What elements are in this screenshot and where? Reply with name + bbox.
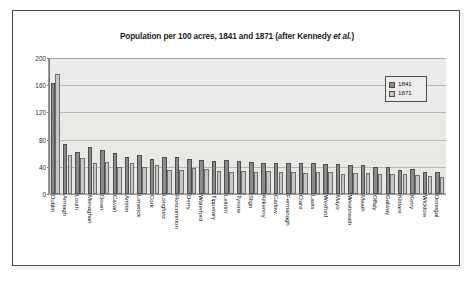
bar-1871[interactable] <box>428 176 433 194</box>
bar-1871[interactable] <box>378 174 383 194</box>
bar-1871[interactable] <box>291 172 296 194</box>
bar-1871[interactable] <box>328 172 333 194</box>
bar-group[interactable] <box>435 58 444 194</box>
x-axis-label-westmeath: Westmeath <box>347 195 354 225</box>
bar-1871[interactable] <box>68 155 73 194</box>
bar-group[interactable] <box>286 58 295 194</box>
legend-swatch-1841-icon <box>389 82 395 88</box>
x-axis-label-sligo: Sligo <box>248 195 255 208</box>
x-axis-category-labels: DublinArmaghLouthMonaghanDownCavanAntrim… <box>48 195 445 265</box>
x-axis-label-cavan: Cavan <box>112 195 119 212</box>
figure-root: Population per 100 acres, 1841 and 1871 … <box>0 0 476 283</box>
x-axis-label-longford: Longford <box>161 195 168 219</box>
bar-1871[interactable] <box>192 168 197 194</box>
bar-1871[interactable] <box>254 172 259 194</box>
bar-1871[interactable] <box>142 167 147 194</box>
bar-group[interactable] <box>373 58 382 194</box>
bar-group[interactable] <box>348 58 357 194</box>
y-axis-tick-label: 160 <box>35 82 46 89</box>
x-axis-label-carlow: Carlow <box>273 195 280 214</box>
bar-group[interactable] <box>249 58 258 194</box>
bar-group[interactable] <box>199 58 208 194</box>
bar-1871[interactable] <box>117 167 122 194</box>
bar-group[interactable] <box>162 58 171 194</box>
bar-group[interactable] <box>336 58 345 194</box>
bar-1871[interactable] <box>303 173 308 194</box>
x-axis-label-donegal: Donegal <box>434 195 441 217</box>
bar-group[interactable] <box>88 58 97 194</box>
bar-1871[interactable] <box>366 173 371 194</box>
x-axis-label-down: Down <box>99 195 106 210</box>
bar-1871[interactable] <box>403 174 408 194</box>
bar-1871[interactable] <box>130 163 135 194</box>
y-axis-tick-label: 80 <box>39 136 46 143</box>
bar-group[interactable] <box>51 58 60 194</box>
bar-1871[interactable] <box>440 177 445 194</box>
y-axis-tick-label: 200 <box>35 55 46 62</box>
chart-title: Population per 100 acres, 1841 and 1871 … <box>13 32 461 41</box>
bar-1871[interactable] <box>105 162 110 194</box>
chart-title-tail: ) <box>351 32 354 41</box>
chart-title-main: Population per 100 acres, 1841 and 1871 … <box>120 32 333 41</box>
x-axis-label-galway: Galway <box>385 195 392 215</box>
bar-1871[interactable] <box>217 171 222 194</box>
bar-group[interactable] <box>150 58 159 194</box>
x-axis-label-fermanagh: Fermanagh <box>285 195 292 226</box>
x-axis-label-meath: Meath <box>360 195 367 212</box>
bar-group[interactable] <box>113 58 122 194</box>
x-axis-label-limerick: Limerick <box>136 195 143 217</box>
bar-group[interactable] <box>175 58 184 194</box>
bar-group[interactable] <box>125 58 134 194</box>
bar-1871[interactable] <box>316 172 321 194</box>
bar-group[interactable] <box>361 58 370 194</box>
bar-group[interactable] <box>299 58 308 194</box>
y-axis-tick-label: 120 <box>35 109 46 116</box>
legend-label-1841: 1841 <box>398 81 412 87</box>
bar-group[interactable] <box>75 58 84 194</box>
chart-frame: Population per 100 acres, 1841 and 1871 … <box>12 10 460 266</box>
x-axis-label-armagh: Armagh <box>62 195 69 216</box>
x-axis-label-tyrone: Tyrone <box>236 195 243 213</box>
bar-group[interactable] <box>212 58 221 194</box>
bar-1871[interactable] <box>167 170 172 194</box>
x-axis-label-cork: Cork <box>149 195 156 208</box>
bar-1871[interactable] <box>353 173 358 194</box>
bar-1871[interactable] <box>241 171 246 194</box>
bar-group[interactable] <box>261 58 270 194</box>
bar-group[interactable] <box>187 58 196 194</box>
chart-title-italic: et al. <box>333 32 351 41</box>
bar-1871[interactable] <box>155 165 160 194</box>
x-axis-label-monaghan: Monaghan <box>87 195 94 223</box>
x-axis-label-dublin: Dublin <box>50 195 57 212</box>
bar-group[interactable] <box>323 58 332 194</box>
bar-group[interactable] <box>237 58 246 194</box>
x-axis-label-kildare: Kildare <box>397 195 404 214</box>
bar-1871[interactable] <box>279 172 284 194</box>
bar-1871[interactable] <box>179 170 184 194</box>
legend-item-1871: 1871 <box>389 89 422 98</box>
bar-group[interactable] <box>274 58 283 194</box>
bar-group[interactable] <box>224 58 233 194</box>
y-axis-tick-label: 40 <box>39 163 46 170</box>
bar-1871[interactable] <box>229 172 234 194</box>
x-axis-label-antrim: Antrim <box>124 195 131 212</box>
x-axis-label-wicklow: Wicklow <box>422 195 429 217</box>
bar-group[interactable] <box>137 58 146 194</box>
x-axis-label-kerry: Kerry <box>409 195 416 209</box>
bar-1871[interactable] <box>93 163 98 194</box>
x-axis-label-clare: Clare <box>298 195 305 209</box>
bar-1871[interactable] <box>80 158 85 194</box>
legend: 1841 1871 <box>385 76 427 102</box>
bar-1871[interactable] <box>415 175 420 194</box>
bar-1871[interactable] <box>390 174 395 194</box>
bar-group[interactable] <box>311 58 320 194</box>
bar-1871[interactable] <box>55 74 60 194</box>
bar-group[interactable] <box>63 58 72 194</box>
bar-group[interactable] <box>100 58 109 194</box>
x-axis-label-roscommon: Roscommon <box>174 195 181 229</box>
bar-1871[interactable] <box>341 174 346 194</box>
x-axis-label-laois: Laois <box>310 195 317 209</box>
x-axis-label-leitrim: Leitrim <box>223 195 230 213</box>
bar-1871[interactable] <box>266 171 271 194</box>
bar-1871[interactable] <box>204 169 209 194</box>
